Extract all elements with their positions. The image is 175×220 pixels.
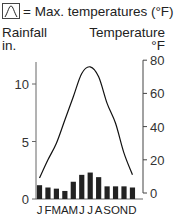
rainfall-bar [37,185,42,199]
rainfall-bar [121,186,126,199]
month-label: J [87,204,93,216]
month-label: F [44,204,51,216]
rainfall-bars [37,173,135,199]
rainfall-bar [113,186,118,199]
rainfall-bar [88,173,93,199]
left-tick-label: 0 [22,192,29,207]
left-tick-label: 10 [15,77,29,92]
rainfall-bar [45,188,50,200]
month-label: S [103,204,111,216]
rainfall-bar [130,188,135,200]
month-label: M [52,204,62,216]
rainfall-bar [62,191,67,199]
rainfall-bar [54,189,59,199]
rainfall-bar [96,177,101,199]
right-tick-label: 80 [150,53,164,68]
month-label: A [95,204,103,216]
month-label: D [128,204,136,216]
right-axis: 020406080 [143,53,164,201]
left-tick-label: 5 [22,135,29,150]
month-label: N [120,204,128,216]
left-axis: 0510 [15,62,143,207]
rainfall-bar [71,182,76,199]
month-label: M [69,204,79,216]
right-tick-label: 0 [150,186,157,201]
month-label: J [79,204,85,216]
month-labels: JFMAMJJASOND [37,204,137,216]
right-tick-label: 20 [150,153,164,168]
month-label: J [37,204,43,216]
climate-chart: 0510 020406080 JFMAMJJASOND [0,0,175,220]
month-label: O [111,204,120,216]
rainfall-bar [79,175,84,199]
right-tick-label: 40 [150,120,164,135]
rainfall-bar [105,186,110,199]
right-tick-label: 60 [150,86,164,101]
max-temperature-line [40,67,133,178]
